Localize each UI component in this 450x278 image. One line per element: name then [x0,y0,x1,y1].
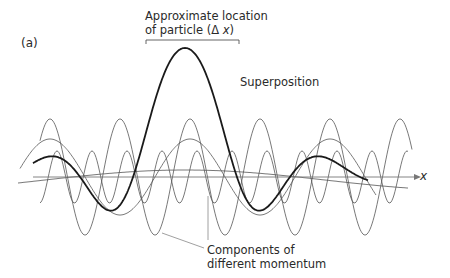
panel-label: (a) [21,36,38,50]
location-prefix: of particle ( [145,23,211,37]
superposition-label: Superposition [240,75,319,89]
location-label: Approximate location of particle (Δ x) [145,9,268,37]
wave-packet-diagram: (a) Approximate location of particle (Δ … [0,0,450,278]
location-label-line2: of particle (Δ x) [145,23,268,37]
delta-symbol: Δ [211,23,219,37]
components-label-line1: Components of [207,243,326,257]
x-axis-label: x [420,169,427,183]
x-variable: x [223,23,230,37]
components-leader-line-1 [162,233,204,248]
components-label-line2: different momentum [207,257,326,271]
wave-plot [0,0,450,278]
superposition-curve [33,48,368,211]
location-label-line1: Approximate location [145,9,268,23]
location-bracket [146,40,239,44]
components-label: Components of different momentum [207,243,326,271]
location-suffix: ) [230,23,235,37]
